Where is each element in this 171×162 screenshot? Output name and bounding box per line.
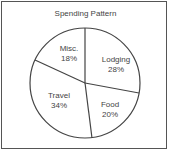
slice-value: 18% bbox=[55, 54, 83, 64]
slice-value: 28% bbox=[96, 65, 136, 75]
slice-name: Food bbox=[95, 100, 125, 110]
slice-label-misc: Misc. 18% bbox=[55, 44, 83, 64]
slice-divider-lodging-food bbox=[85, 83, 139, 93]
slice-value: 20% bbox=[95, 110, 125, 120]
slice-value: 34% bbox=[44, 101, 74, 111]
pie-chart bbox=[0, 0, 171, 162]
slice-label-food: Food 20% bbox=[95, 100, 125, 120]
slice-label-lodging: Lodging 28% bbox=[96, 55, 136, 75]
slice-divider-food-travel bbox=[85, 83, 92, 138]
slice-label-travel: Travel 34% bbox=[44, 91, 74, 111]
slice-name: Travel bbox=[44, 91, 74, 101]
slice-name: Lodging bbox=[96, 55, 136, 65]
slice-name: Misc. bbox=[55, 44, 83, 54]
